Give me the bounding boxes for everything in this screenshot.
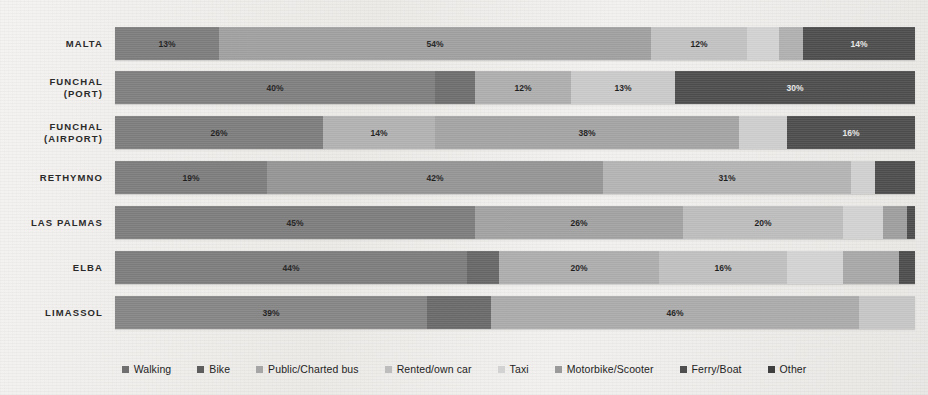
chart-row: LAS PALMAS45%26%20% — [0, 206, 928, 239]
bar-segment-public-charted-bus[interactable]: 46% — [491, 296, 859, 329]
bar-segment-other[interactable]: 30% — [675, 71, 915, 104]
legend-item-walking[interactable]: Walking — [122, 363, 172, 375]
legend-swatch-icon — [122, 366, 129, 373]
bar-segment-walking[interactable]: 39% — [115, 296, 427, 329]
stacked-bar[interactable]: 39%46% — [115, 296, 915, 329]
stacked-bar[interactable]: 44%20%16% — [115, 251, 915, 284]
chart-row: ELBA44%20%16% — [0, 251, 928, 284]
legend-item-bike[interactable]: Bike — [197, 363, 230, 375]
row-label-line: ELBA — [0, 262, 103, 274]
segment-value-label: 14% — [850, 39, 867, 49]
legend-item-ferry-boat[interactable]: Ferry/Boat — [680, 363, 742, 375]
bar-segment-public-charted-bus[interactable]: 12% — [475, 71, 571, 104]
segment-value-label: 40% — [266, 83, 283, 93]
stacked-bar[interactable]: 26%14%38%16% — [115, 116, 915, 149]
bar-segment-motorbike-scooter[interactable] — [883, 206, 907, 239]
legend-item-public-charted-bus[interactable]: Public/Charted bus — [256, 363, 359, 375]
legend-label: Walking — [134, 363, 172, 375]
bar-segment-ferry-boat[interactable] — [435, 71, 475, 104]
stacked-bar[interactable]: 45%26%20% — [115, 206, 915, 239]
bar-segment-public-charted-bus[interactable]: 42% — [267, 161, 603, 194]
bar-segment-walking[interactable]: 19% — [115, 161, 267, 194]
row-label-elba: ELBA — [0, 262, 103, 274]
legend-label: Rented/own car — [397, 363, 472, 375]
bar-segment-ferry-boat[interactable] — [427, 296, 491, 329]
row-label-line: (AIRPORT) — [0, 133, 103, 145]
legend-swatch-icon — [680, 366, 687, 373]
bar-segment-taxi[interactable] — [851, 161, 875, 194]
legend-item-taxi[interactable]: Taxi — [498, 363, 529, 375]
bar-segment-other[interactable] — [907, 206, 915, 239]
segment-value-label: 26% — [210, 128, 227, 138]
bar-segment-public-charted-bus[interactable]: 14% — [323, 116, 435, 149]
segment-value-label: 19% — [182, 173, 199, 183]
legend-swatch-icon — [385, 366, 392, 373]
row-label-line: FUNCHAL — [0, 121, 103, 133]
bar-segment-motorbike-scooter[interactable] — [779, 27, 803, 60]
bar-segment-rented-own-car[interactable]: 31% — [603, 161, 851, 194]
chart-legend: WalkingBikePublic/Charted busRented/own … — [0, 358, 928, 380]
bar-segment-rented-own-car[interactable]: 13% — [571, 71, 675, 104]
row-label-line: FUNCHAL — [0, 76, 103, 88]
chart-row: FUNCHAL(AIRPORT)26%14%38%16% — [0, 116, 928, 149]
segment-value-label: 45% — [286, 218, 303, 228]
bar-segment-taxi[interactable] — [739, 116, 787, 149]
row-label-line: (PORT) — [0, 88, 103, 100]
bar-segment-other[interactable]: 14% — [803, 27, 915, 60]
segment-value-label: 42% — [426, 173, 443, 183]
row-label-funchal-airport: FUNCHAL(AIRPORT) — [0, 121, 103, 145]
bar-segment-rented-own-car[interactable]: 20% — [683, 206, 843, 239]
bar-segment-rented-own-car[interactable]: 16% — [659, 251, 787, 284]
segment-value-label: 12% — [514, 83, 531, 93]
bar-segment-walking[interactable]: 26% — [115, 116, 323, 149]
segment-value-label: 38% — [578, 128, 595, 138]
segment-value-label: 13% — [614, 83, 631, 93]
bar-segment-other[interactable] — [875, 161, 915, 194]
bar-segment-bike[interactable]: 40% — [115, 71, 435, 104]
bar-segment-taxi[interactable] — [843, 206, 883, 239]
segment-value-label: 13% — [158, 39, 175, 49]
legend-label: Motorbike/Scooter — [567, 363, 654, 375]
bar-segment-bike[interactable]: 44% — [115, 251, 467, 284]
legend-swatch-icon — [197, 366, 204, 373]
bar-segment-taxi[interactable] — [787, 251, 843, 284]
bar-segment-rented-own-car[interactable]: 38% — [435, 116, 739, 149]
bar-segment-public-charted-bus[interactable]: 20% — [499, 251, 659, 284]
row-label-las-palmas: LAS PALMAS — [0, 217, 103, 229]
stacked-bar[interactable]: 19%42%31% — [115, 161, 915, 194]
segment-value-label: 39% — [262, 308, 279, 318]
bar-segment-ferry-boat[interactable] — [467, 251, 499, 284]
bar-segment-public-charted-bus[interactable]: 54% — [219, 27, 651, 60]
bar-segment-public-charted-bus[interactable]: 26% — [475, 206, 683, 239]
bar-segment-motorbike-scooter[interactable] — [843, 251, 899, 284]
row-label-funchal-port: FUNCHAL(PORT) — [0, 76, 103, 100]
stacked-bar[interactable]: 13%54%12%14% — [115, 27, 915, 60]
chart-row: LIMASSOL39%46% — [0, 296, 928, 329]
segment-value-label: 16% — [714, 263, 731, 273]
legend-item-rented-own-car[interactable]: Rented/own car — [385, 363, 472, 375]
legend-swatch-icon — [555, 366, 562, 373]
legend-swatch-icon — [256, 366, 263, 373]
row-label-line: RETHYMNO — [0, 172, 103, 184]
bar-segment-other[interactable] — [899, 251, 915, 284]
legend-item-other[interactable]: Other — [768, 363, 807, 375]
bar-segment-rented-own-car[interactable] — [747, 27, 779, 60]
bar-segment-rented-own-car[interactable] — [859, 296, 915, 329]
stacked-bar[interactable]: 40%12%13%30% — [115, 71, 915, 104]
row-label-limassol: LIMASSOL — [0, 307, 103, 319]
bar-segment-walking[interactable]: 13% — [115, 27, 219, 60]
bar-segment-walking[interactable]: 45% — [115, 206, 475, 239]
bar-segment-taxi[interactable]: 12% — [651, 27, 747, 60]
bar-segment-other[interactable]: 16% — [787, 116, 915, 149]
legend-item-motorbike-scooter[interactable]: Motorbike/Scooter — [555, 363, 654, 375]
legend-label: Other — [780, 363, 807, 375]
legend-label: Taxi — [510, 363, 529, 375]
chart-row: MALTA13%54%12%14% — [0, 27, 928, 60]
stacked-bar-chart: MALTA13%54%12%14%FUNCHAL(PORT)40%12%13%3… — [0, 0, 928, 355]
legend-label: Bike — [209, 363, 230, 375]
segment-value-label: 54% — [426, 39, 443, 49]
row-label-line: MALTA — [0, 38, 103, 50]
row-label-line: LIMASSOL — [0, 307, 103, 319]
chart-row: FUNCHAL(PORT)40%12%13%30% — [0, 71, 928, 104]
legend-swatch-icon — [498, 366, 505, 373]
